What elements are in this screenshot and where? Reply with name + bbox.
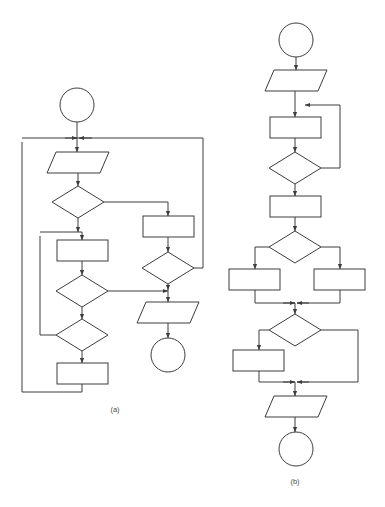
process-1-a: [57, 240, 108, 261]
decision-branch-b: [269, 231, 321, 263]
conn-b-left-merge: [255, 290, 295, 303]
decision-2-a: [56, 275, 108, 307]
decision-right-a: [142, 252, 194, 284]
caption-b: (b): [290, 477, 300, 486]
input-parallelogram-b: [265, 70, 327, 91]
conn-decision-right-to-outerline: [194, 138, 203, 268]
end-terminal-a: [151, 338, 185, 372]
conn-process2-to-outer-left: [22, 142, 82, 392]
conn-b-branch-right: [321, 247, 340, 269]
figure-container: (a) (b): [0, 0, 385, 507]
process-2-a: [57, 363, 108, 384]
caption-a: (a): [110, 405, 120, 414]
input-parallelogram-a: [47, 152, 109, 173]
decision-loop-b: [269, 152, 321, 184]
nodes-group-b: [229, 23, 365, 466]
output-parallelogram-a: [137, 302, 199, 323]
start-terminal-a: [60, 88, 94, 122]
conn-b-if-left: [259, 330, 269, 350]
conn-b-branch-left: [255, 247, 269, 269]
process-right-a: [143, 216, 194, 237]
process-after-loop-b: [270, 196, 321, 217]
decision-if-b: [269, 314, 321, 346]
decision-3-a: [56, 319, 108, 351]
start-terminal-b: [279, 23, 313, 57]
conn-inner-loop-into-process1: [40, 232, 82, 240]
nodes-group-a: [47, 88, 199, 384]
process-right-branch-b: [314, 269, 365, 290]
end-terminal-b: [279, 432, 313, 466]
conn-decision3-left: [40, 236, 56, 335]
process-left-branch-b: [229, 269, 280, 290]
conn-decision1-right: [104, 202, 168, 216]
process-if-body-b: [233, 350, 284, 371]
process-loop-b: [270, 117, 321, 138]
flowchart-figure: (a) (b): [0, 0, 385, 507]
conn-b-if-body-merge: [259, 371, 295, 382]
decision-1-a: [52, 186, 104, 218]
conn-b-right-merge: [297, 290, 340, 303]
output-parallelogram-b: [265, 396, 327, 417]
